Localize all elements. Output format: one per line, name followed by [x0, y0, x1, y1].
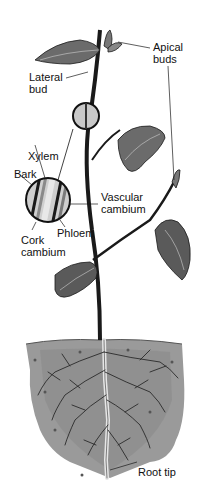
stem	[87, 30, 175, 340]
label-apical-buds: Apical buds	[153, 41, 183, 65]
label-lateral-bud: Lateral bud	[29, 71, 63, 95]
label-root-tip: Root tip	[138, 466, 176, 478]
stem-magnifier	[73, 103, 99, 129]
label-xylem: Xylem	[28, 150, 59, 162]
label-vascular-cambium: Vascular cambium	[101, 191, 146, 215]
label-bark: Bark	[14, 168, 37, 180]
label-cork-cambium: Cork cambium	[21, 234, 66, 258]
